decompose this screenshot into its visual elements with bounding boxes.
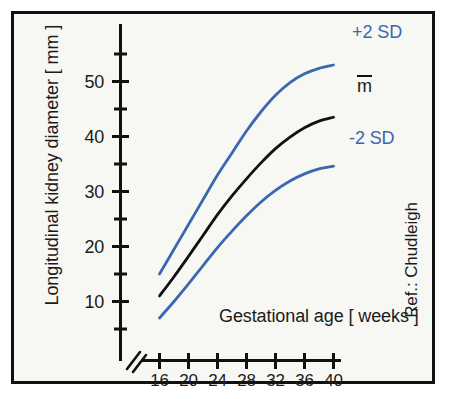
x-tick-label-40: 40 [319,371,349,391]
x-tick-label-36: 36 [290,371,320,391]
y-axis-title: Longitudinal kidney diameter [ mm ] [42,56,63,306]
series-label-mean-text: m [357,75,372,95]
x-tick-label-32: 32 [261,371,291,391]
curve-mean [160,117,334,296]
y-tick-label-10: 10 [70,292,104,313]
x-tick-label-20: 20 [174,371,204,391]
chart-plot-area [0,0,450,399]
series-label-mean: m [357,75,372,97]
y-tick-label-50: 50 [70,72,104,93]
series-label-plus-2sd: +2 SD [352,22,402,43]
reference-note: Ref.: Chudleigh [402,168,422,353]
y-tick-label-40: 40 [70,127,104,148]
series-label-minus-2sd: -2 SD [349,128,395,149]
curve-minus-2sd [160,166,334,318]
figure-container: 10 20 30 40 50 16 20 24 28 32 36 40 Gest… [0,0,450,399]
x-axis-title: Gestational age [ weeks ] [219,306,419,327]
curve-plus-2sd [160,65,334,274]
x-tick-label-24: 24 [203,371,233,391]
x-tick-label-28: 28 [232,371,262,391]
x-tick-label-16: 16 [145,371,175,391]
y-tick-label-30: 30 [70,182,104,203]
y-tick-label-20: 20 [70,237,104,258]
